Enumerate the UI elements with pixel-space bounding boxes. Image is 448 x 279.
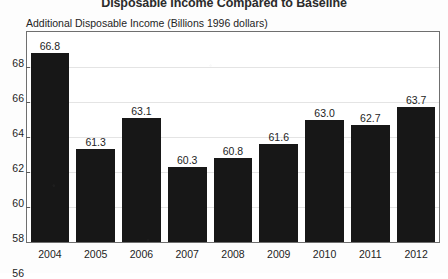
y-tick-mark [26, 172, 30, 173]
y-tick-label: 64 [2, 127, 24, 139]
y-tick-label: 58 [2, 232, 24, 244]
x-tick-label: 2010 [302, 248, 348, 260]
bar [351, 125, 390, 242]
y-tick-mark [26, 137, 30, 138]
bar-value-label: 60.3 [168, 154, 207, 166]
bar [76, 149, 115, 242]
bar [168, 167, 207, 242]
y-tick-label: 68 [2, 57, 24, 69]
bar [305, 120, 344, 243]
bar-value-label: 66.8 [31, 40, 70, 52]
y-tick-label: 62 [2, 162, 24, 174]
bar [31, 53, 70, 242]
chart-title: Disposable Income Compared to Baseline [0, 0, 448, 10]
bar [259, 144, 298, 242]
bar-value-label: 61.3 [76, 136, 115, 148]
x-tick-label: 2012 [393, 248, 439, 260]
x-tick-label: 2011 [347, 248, 393, 260]
x-tick-label: 2009 [256, 248, 302, 260]
y-axis: 56586062646668 [0, 31, 24, 243]
x-tick-label: 2007 [164, 248, 210, 260]
x-tick-label: 2005 [73, 248, 119, 260]
bar-value-label: 63.7 [397, 94, 436, 106]
y-tick-label: 66 [2, 92, 24, 104]
bar-value-label: 61.6 [259, 131, 298, 143]
x-tick-label: 2008 [210, 248, 256, 260]
y-tick-label: 60 [2, 197, 24, 209]
bar-value-label: 62.7 [351, 112, 390, 124]
y-tick-label: 56 [2, 267, 24, 279]
x-tick-label: 2004 [27, 248, 73, 260]
bar [122, 118, 161, 242]
x-tick-label: 2006 [119, 248, 165, 260]
y-tick-mark [26, 102, 30, 103]
bar-value-label: 60.8 [214, 145, 253, 157]
y-tick-mark [26, 67, 30, 68]
bar [214, 158, 253, 242]
chart-subtitle: Additional Disposable Income (Billions 1… [26, 17, 268, 29]
bar [397, 107, 436, 242]
bar-value-label: 63.0 [305, 107, 344, 119]
y-tick-mark [26, 207, 30, 208]
bar-value-label: 63.1 [122, 105, 161, 117]
